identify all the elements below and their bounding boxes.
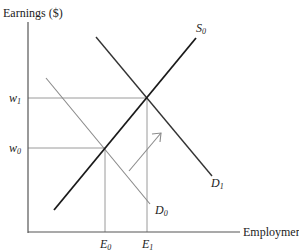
labor-market-diagram: Earnings ($) Employment w1 w0 E0 E1 S0 D… (0, 0, 299, 252)
e1-label: E1 (141, 237, 153, 252)
shift-arrow-icon (129, 133, 161, 171)
w0-label: w0 (9, 141, 21, 156)
d1-label: D1 (210, 176, 224, 191)
demand-curve-d0 (46, 78, 150, 204)
s0-label: S0 (196, 21, 206, 36)
d0-label: D0 (154, 203, 168, 218)
y-axis-label: Earnings ($) (3, 6, 63, 20)
demand-curve-d1 (96, 37, 212, 176)
x-axis-label: Employment (243, 225, 299, 239)
e0-label: E0 (99, 237, 111, 252)
w1-label: w1 (9, 91, 21, 106)
supply-curve-s0 (54, 38, 196, 210)
